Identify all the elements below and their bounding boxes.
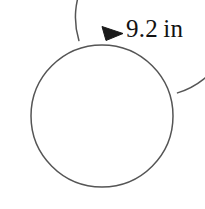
circumference-arrow-arc — [75, 0, 205, 93]
measurement-value: 9.2 — [126, 15, 158, 42]
circle-diagram: 9.2in — [0, 0, 205, 209]
arrowhead-icon — [102, 27, 123, 41]
circle-outline — [31, 45, 173, 187]
measurement-unit: in — [163, 15, 183, 42]
circumference-label: 9.2in — [126, 16, 183, 41]
